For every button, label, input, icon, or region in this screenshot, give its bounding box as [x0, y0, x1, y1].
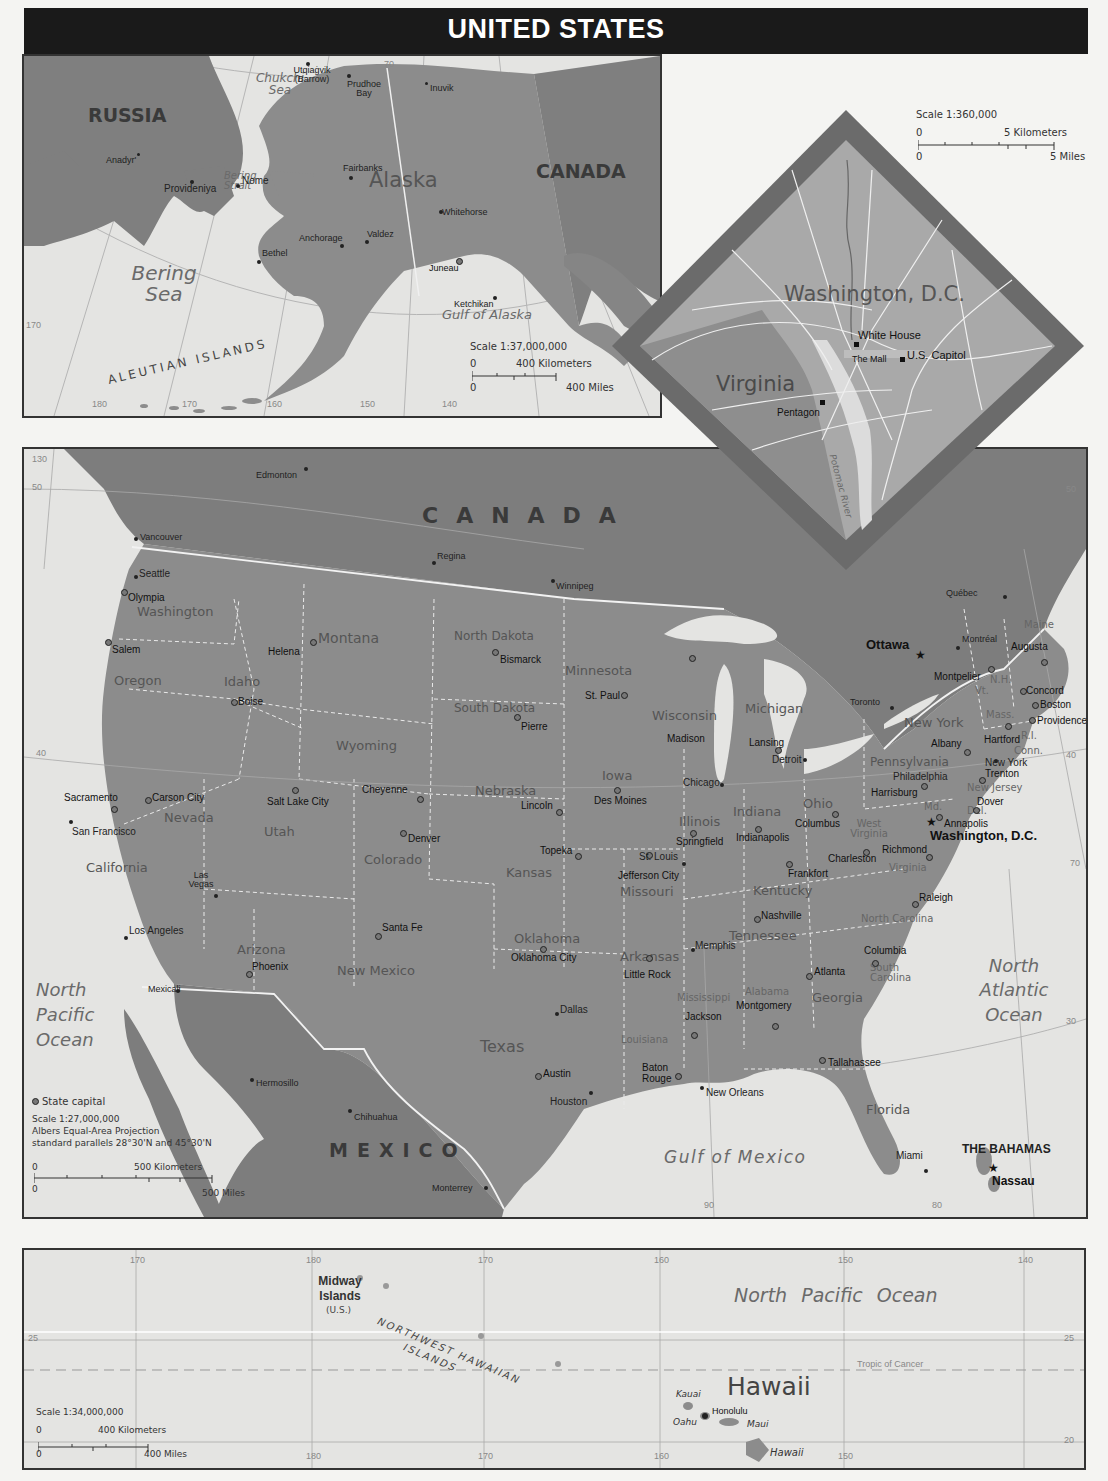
grid-label: 70 [1070, 859, 1080, 868]
capital-concord: Concord [1026, 686, 1064, 696]
grid-label: 160 [654, 1256, 669, 1265]
capital-springfield: Springfield [676, 837, 723, 847]
city-fairbanks: Fairbanks [343, 164, 383, 173]
capital-salem: Salem [112, 645, 140, 655]
scale-bar-graphic [38, 1437, 150, 1456]
capital-albany: Albany [931, 739, 962, 749]
grid-label: 170 [26, 321, 41, 330]
grid-label: 25 [28, 1334, 38, 1343]
hawaii-scale-bar: Scale 1:34,000,000 0 400 Kilometers 0 40… [36, 1408, 206, 1468]
state-capital-symbol [32, 1098, 39, 1105]
city-marker [69, 820, 73, 824]
state-ohio: Ohio [803, 797, 833, 810]
gulf-of-alaska-label: Gulf of Alaska [442, 308, 532, 321]
capital-marker [310, 639, 317, 646]
scale-ratio: Scale 1:37,000,000 [470, 342, 567, 352]
state-kansas: Kansas [506, 866, 552, 879]
capital-denver: Denver [408, 834, 440, 844]
grid-label: 25 [1064, 1334, 1074, 1343]
capital-marker [417, 796, 424, 803]
city-nassau: Nassau [992, 1175, 1035, 1187]
capital-marker [964, 749, 971, 756]
capital-montpelier: Montpelier [934, 672, 981, 682]
city-whitehorse: Whitehorse [442, 208, 488, 217]
grid-label: 160 [267, 400, 282, 409]
capital-madison: Madison [667, 734, 705, 744]
state-tennessee: Tennessee [729, 929, 797, 942]
scale-mi-label: 400 Miles [566, 383, 614, 393]
north-atlantic-ocean-label: North Atlantic Ocean [974, 954, 1054, 1027]
capital-sacramento: Sacramento [64, 793, 118, 803]
city-provideniya: Provideniya [164, 184, 216, 194]
state-mississippi: Mississippi [677, 993, 730, 1003]
state-texas: Texas [480, 1039, 524, 1055]
city-miami: Miami [896, 1151, 923, 1161]
city-marker [720, 783, 724, 787]
state-alabama: Alabama [745, 987, 789, 997]
state-north-dakota: North Dakota [454, 630, 534, 642]
scale-km-zero: 0 [916, 128, 922, 138]
dc-region-label: Washington, D.C. [784, 284, 965, 305]
legend-parallels: standard parallels 28°30'N and 45°30'N [32, 1139, 212, 1148]
north-pacific-ocean-label: North Pacific Ocean [36, 977, 106, 1053]
capital-marker [646, 955, 653, 962]
capital-marker [1032, 702, 1039, 709]
city-marker [432, 561, 436, 565]
capital-marker [111, 806, 118, 813]
state-idaho: Idaho [224, 675, 260, 688]
capital-austin: Austin [543, 1069, 571, 1079]
landmark-marker [854, 342, 859, 347]
capital-charleston: Charleston [828, 854, 876, 864]
scale-mi-label: 5 Miles [1050, 152, 1085, 162]
capital-marker [1041, 659, 1048, 666]
mexico-label: MEXICO [329, 1141, 467, 1160]
grid-label: 180 [92, 400, 107, 409]
capital-marker [832, 811, 839, 818]
grid-label: 80 [932, 1201, 942, 1210]
state-south-dakota: South Dakota [454, 702, 535, 714]
city-ottawa: Ottawa [866, 638, 909, 651]
capital-topeka: Topeka [540, 846, 572, 856]
state-missouri: Missouri [620, 885, 674, 898]
city-new-orleans: New Orleans [706, 1088, 764, 1098]
capital-marker [231, 699, 238, 706]
city-marker [589, 1091, 593, 1095]
scale-km-zero: 0 [32, 1163, 38, 1172]
island-oahu: Oahu [673, 1418, 697, 1427]
capital-annapolis: Annapolis [944, 819, 988, 829]
capital-columbia: Columbia [864, 946, 906, 956]
capital-harrisburg: Harrisburg [871, 788, 918, 798]
city-marker [349, 176, 353, 180]
capital-augusta: Augusta [1011, 642, 1048, 652]
capital-marker [246, 971, 253, 978]
capital-helena: Helena [268, 647, 300, 657]
capital-marker [912, 901, 919, 908]
capital-santa-fe: Santa Fe [382, 923, 423, 933]
island-hawaii: Hawaii [770, 1448, 804, 1458]
virginia-label: Virginia [716, 374, 795, 395]
capital-boston: Boston [1040, 700, 1071, 710]
north-pacific-ocean-label-hawaii: North Pacific Ocean [734, 1286, 938, 1305]
city-marker [924, 1169, 928, 1173]
city-marker [700, 1086, 704, 1090]
state-utah: Utah [264, 825, 295, 838]
city-utqiagvik: Utqiaġvik (Barrow) [282, 66, 342, 84]
state-oklahoma: Oklahoma [514, 932, 580, 945]
bahamas-label: THE BAHAMAS [962, 1143, 1051, 1155]
national-capital-star: ★ [988, 1162, 999, 1174]
grid-label: 170 [130, 1256, 145, 1265]
grid-label: 180 [306, 1256, 321, 1265]
capital-marker [105, 639, 112, 646]
national-capital-star: ★ [915, 649, 926, 661]
state-virginia: Virginia [889, 863, 927, 873]
scale-mi-zero: 0 [916, 152, 922, 162]
city-philadelphia: Philadelphia [893, 772, 948, 782]
capital-boise: Boise [238, 697, 263, 707]
scale-km-label: 400 Kilometers [98, 1426, 166, 1435]
state-oregon: Oregon [114, 674, 162, 687]
legend-state-capital: State capital [42, 1097, 105, 1107]
state-new-york: New York [904, 716, 964, 729]
capital-marker [819, 1057, 826, 1064]
capital-marker [872, 960, 879, 967]
city-anchorage: Anchorage [299, 234, 343, 243]
